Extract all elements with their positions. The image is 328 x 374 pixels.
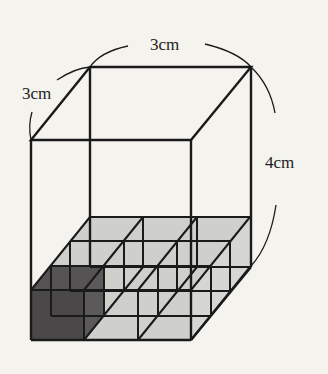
depth-arc-bottom (30, 112, 32, 140)
height-label: 4cm (265, 153, 294, 172)
prism-figure: 3cm 3cm 4cm (0, 0, 328, 374)
height-arc-top (251, 67, 275, 113)
unit-cube-layer (31, 217, 250, 340)
width-label: 3cm (150, 35, 179, 54)
depth-label: 3cm (22, 84, 51, 103)
prism-diagram: 3cm 3cm 4cm (0, 0, 328, 374)
width-arc-right (205, 44, 251, 67)
width-arc-left (90, 46, 128, 67)
height-arc-bottom (251, 205, 276, 266)
